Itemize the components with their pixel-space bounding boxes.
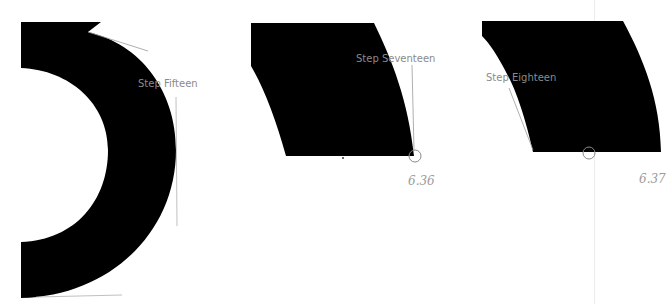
step-label-seventeen: Step Seventeen bbox=[356, 53, 435, 64]
page-number-6-36: 6.36 bbox=[408, 174, 435, 188]
step-label-eighteen: Step Eighteen bbox=[486, 72, 556, 83]
glyph-step-eighteen bbox=[482, 21, 661, 159]
diagram-canvas bbox=[0, 0, 672, 304]
handle-line bbox=[412, 65, 414, 150]
point-marker bbox=[342, 157, 344, 159]
handle-line bbox=[36, 295, 122, 297]
glyph-step-fifteen bbox=[21, 22, 177, 298]
glyph-step-seventeen bbox=[251, 23, 421, 162]
handle-line bbox=[176, 97, 177, 226]
page-number-6-37: 6.37 bbox=[639, 172, 666, 186]
step-label-fifteen: Step Fifteen bbox=[138, 78, 198, 89]
